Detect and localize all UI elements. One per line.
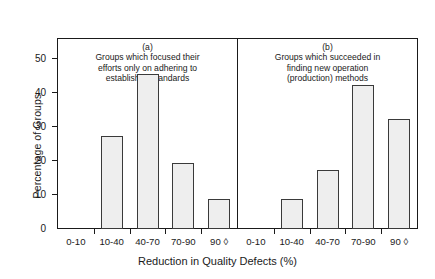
panel-b: (b) Groups which succeeded in finding ne… bbox=[238, 38, 417, 229]
x-tick-mark bbox=[201, 229, 202, 234]
y-tick-label: 0 bbox=[18, 223, 46, 234]
bar-chart-figure: Percentage of Groups 01020304050 (a) Gro… bbox=[0, 0, 435, 279]
bar bbox=[352, 85, 374, 229]
y-tick-label: 10 bbox=[18, 189, 46, 200]
panel-a-bars bbox=[58, 38, 237, 229]
x-tick-mark bbox=[165, 229, 166, 234]
y-axis-tick-labels: 01020304050 bbox=[18, 0, 46, 279]
bar bbox=[172, 163, 194, 229]
x-tick-mark bbox=[274, 229, 275, 234]
x-tick-mark bbox=[381, 229, 382, 234]
x-tick-mark bbox=[310, 229, 311, 234]
x-axis-title: Reduction in Quality Defects (%) bbox=[0, 255, 435, 267]
y-tick-label: 20 bbox=[18, 155, 46, 166]
bar bbox=[101, 136, 123, 229]
x-tick-mark bbox=[130, 229, 131, 234]
bar bbox=[137, 74, 159, 229]
bar bbox=[388, 119, 410, 229]
bar bbox=[208, 199, 230, 229]
bar bbox=[317, 170, 339, 229]
bar bbox=[281, 199, 303, 229]
y-tick-label: 30 bbox=[18, 121, 46, 132]
plot-right-border bbox=[417, 38, 418, 229]
y-tick-label: 40 bbox=[18, 87, 46, 98]
x-tick-mark bbox=[94, 229, 95, 234]
y-tick-label: 50 bbox=[18, 53, 46, 64]
panel-a: (a) Groups which focused their efforts o… bbox=[58, 38, 237, 229]
x-tick-mark bbox=[345, 229, 346, 234]
x-tick-label: 90 ◊ bbox=[369, 236, 429, 247]
panel-b-bars bbox=[238, 38, 417, 229]
